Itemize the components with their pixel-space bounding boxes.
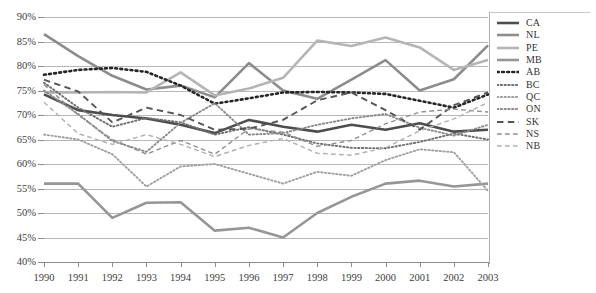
- chart-legend: CANLPEMBABBCQCONSKNSNB: [497, 17, 589, 152]
- legend-swatch-nl-icon: [497, 30, 519, 40]
- series-line-qc: [44, 135, 488, 191]
- legend-item-mb[interactable]: MB: [497, 54, 589, 66]
- legend-swatch-nb-icon: [497, 141, 519, 151]
- legend-swatch-ca-icon: [497, 18, 519, 28]
- y-axis-tick-label: 85%: [17, 37, 36, 47]
- legend-item-bc[interactable]: BC: [497, 78, 589, 90]
- legend-label: NB: [526, 141, 540, 151]
- x-axis-tick-label: 1999: [341, 272, 362, 283]
- legend-swatch-mb-icon: [497, 55, 519, 65]
- x-axis-line: [44, 262, 488, 263]
- series-line-mb: [44, 181, 488, 238]
- legend-item-sk[interactable]: SK: [497, 115, 589, 127]
- x-axis-tick-mark: [420, 262, 421, 267]
- legend-item-qc[interactable]: QC: [497, 91, 589, 103]
- y-axis-tick-label: 75%: [17, 86, 36, 96]
- legend-swatch-qc-icon: [497, 92, 519, 102]
- legend-item-ab[interactable]: AB: [497, 66, 589, 78]
- legend-item-on[interactable]: ON: [497, 103, 589, 115]
- y-axis-tick-label: 65%: [17, 135, 36, 145]
- legend-item-nl[interactable]: NL: [497, 29, 589, 41]
- x-axis-tick-mark: [283, 262, 284, 267]
- series-line-nl: [44, 34, 488, 99]
- legend-label: ON: [526, 104, 541, 114]
- cropped-title-text: [120, 0, 480, 3]
- legend-label: CA: [526, 18, 540, 28]
- x-axis-tick-label: 1998: [307, 272, 328, 283]
- x-axis-tick-label: 1994: [170, 272, 191, 283]
- legend-label: BC: [526, 80, 540, 90]
- x-axis-tick-mark: [454, 262, 455, 267]
- legend-swatch-pe-icon: [497, 43, 519, 53]
- x-axis-tick-label: 2003: [478, 272, 499, 283]
- x-axis-tick-mark: [44, 262, 45, 267]
- y-axis-tick-label: 80%: [17, 61, 36, 71]
- x-axis-tick-label: 2000: [375, 272, 396, 283]
- legend-item-pe[interactable]: PE: [497, 42, 589, 54]
- legend-label: SK: [526, 117, 539, 127]
- chart-page: 90%85%80%75%70%65%60%55%50%45%40% CANLPE…: [0, 0, 596, 293]
- legend-swatch-on-icon: [497, 104, 519, 114]
- x-axis-tick-mark: [146, 262, 147, 267]
- y-axis-tick-label: 60%: [17, 159, 36, 169]
- y-axis-tick-label: 50%: [17, 208, 36, 218]
- x-axis-tick-mark: [488, 262, 489, 267]
- y-axis: 90%85%80%75%70%65%60%55%50%45%40%: [0, 0, 44, 293]
- x-axis-tick-mark: [215, 262, 216, 267]
- series-line-pe: [44, 38, 488, 96]
- y-axis-tick-label: 55%: [17, 184, 36, 194]
- y-axis-tick-label: 45%: [17, 233, 36, 243]
- x-axis-tick-mark: [386, 262, 387, 267]
- x-axis-tick-label: 1996: [238, 272, 259, 283]
- legend-label: NL: [526, 30, 540, 40]
- x-axis-tick-mark: [181, 262, 182, 267]
- x-axis-tick-label: 2002: [443, 272, 464, 283]
- y-axis-tick-label: 70%: [17, 110, 36, 120]
- x-axis-tick-label: 1993: [136, 272, 157, 283]
- x-axis-tick-label: 1991: [68, 272, 89, 283]
- x-axis-tick-label: 1995: [204, 272, 225, 283]
- legend-top-rule: [489, 12, 590, 13]
- legend-item-nb[interactable]: NB: [497, 140, 589, 152]
- x-axis-tick-mark: [317, 262, 318, 267]
- series-lines: [44, 17, 488, 262]
- plot-area: [44, 17, 488, 262]
- legend-swatch-ns-icon: [497, 129, 519, 139]
- y-axis-tick-label: 40%: [17, 257, 36, 267]
- legend-item-ns[interactable]: NS: [497, 128, 589, 140]
- y-axis-tick-label: 90%: [17, 12, 36, 22]
- legend-label: AB: [526, 67, 540, 77]
- x-axis-tick-label: 1990: [34, 272, 55, 283]
- x-axis-tick-label: 1992: [102, 272, 123, 283]
- legend-divider: [489, 12, 490, 264]
- legend-swatch-sk-icon: [497, 117, 519, 127]
- legend-label: MB: [526, 55, 542, 65]
- x-axis-tick-mark: [78, 262, 79, 267]
- legend-swatch-ab-icon: [497, 67, 519, 77]
- legend-label: QC: [526, 92, 540, 102]
- x-axis-tick-label: 1997: [273, 272, 294, 283]
- legend-swatch-bc-icon: [497, 80, 519, 90]
- legend-item-ca[interactable]: CA: [497, 17, 589, 29]
- x-axis-tick-mark: [351, 262, 352, 267]
- legend-label: NS: [526, 129, 539, 139]
- x-axis-tick-label: 2001: [409, 272, 430, 283]
- x-axis-tick-mark: [249, 262, 250, 267]
- legend-label: PE: [526, 43, 538, 53]
- x-axis-tick-mark: [112, 262, 113, 267]
